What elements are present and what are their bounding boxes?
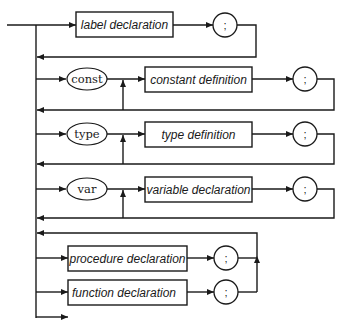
arrow-right-icon: [207, 289, 214, 295]
row-var: var variable declaration ;: [36, 177, 334, 221]
arrow-up-icon: [120, 135, 126, 142]
arrow-left-icon: [37, 161, 44, 167]
const-keyword-text: const: [71, 72, 103, 86]
row-type: type type definition ;: [36, 122, 334, 167]
label-declaration-text: label declaration: [81, 18, 169, 32]
arrow-up-icon: [120, 80, 126, 87]
semicolon-text: ;: [303, 183, 306, 195]
arrow-right-icon: [206, 22, 213, 28]
var-keyword-text: var: [77, 182, 97, 196]
row-const: const constant definition ;: [36, 67, 334, 113]
arrow-right-icon: [59, 186, 66, 192]
arrow-right-icon: [61, 255, 68, 261]
semicolon-text: ;: [224, 286, 227, 298]
type-keyword-text: type: [74, 127, 99, 141]
procedure-declaration-text: procedure declaration: [68, 252, 185, 266]
constant-definition-text: constant definition: [150, 73, 247, 87]
arrow-right-icon: [286, 186, 293, 192]
arrow-right-icon: [69, 22, 76, 28]
semicolon-text: ;: [224, 252, 227, 264]
arrow-right-icon: [138, 131, 145, 137]
semicolon-text: ;: [303, 128, 306, 140]
arrow-up-icon: [254, 256, 260, 263]
exit-path: [36, 314, 68, 320]
arrow-right-icon: [61, 314, 68, 320]
arrow-right-icon: [207, 255, 214, 261]
arrow-right-icon: [138, 186, 145, 192]
arrow-left-icon: [37, 54, 44, 60]
function-declaration-text: function declaration: [72, 286, 176, 300]
semicolon-text: ;: [223, 19, 226, 31]
arrow-right-icon: [61, 289, 68, 295]
arrow-left-icon: [37, 230, 44, 236]
type-definition-text: type definition: [161, 128, 235, 142]
syntax-diagram-declarations: label declaration ; const constant defin…: [0, 0, 349, 333]
variable-declaration-text: variable declaration: [146, 183, 250, 197]
row-procedure-function-group: procedure declaration ; function declara…: [36, 230, 260, 305]
semicolon-text: ;: [303, 73, 306, 85]
row-label-declaration: label declaration ;: [37, 12, 256, 60]
arrow-right-icon: [286, 131, 293, 137]
arrow-right-icon: [138, 76, 145, 82]
arrow-right-icon: [59, 131, 66, 137]
entry-and-trunk: [7, 22, 76, 318]
arrow-left-icon: [37, 107, 44, 113]
arrow-left-icon: [37, 215, 44, 221]
arrow-right-icon: [286, 76, 293, 82]
arrow-up-icon: [120, 190, 126, 197]
arrow-right-icon: [59, 76, 66, 82]
